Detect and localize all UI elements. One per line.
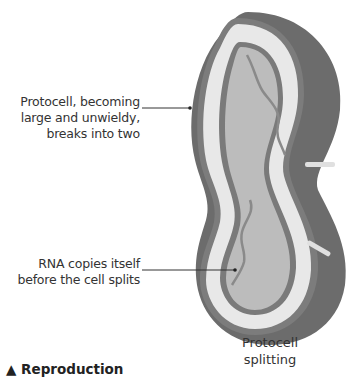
callout-line: breaks into two [0,126,140,142]
caption-line: splitting [220,351,320,368]
section-heading: ▲ Reproduction [6,361,123,377]
callout-line: before the cell splits [0,272,140,288]
section-heading-text: Reproduction [21,361,123,377]
callout-rna-copy: RNA copies itself before the cell splits [0,256,140,288]
figure-caption: Protocell splitting [220,334,320,368]
triangle-marker-icon: ▲ [6,361,16,377]
callout-protocell-growth: Protocell, becoming large and unwieldy, … [0,94,140,142]
membrane-fragment [305,162,335,167]
callout-line: large and unwieldy, [0,110,140,126]
callout-line: Protocell, becoming [0,94,140,110]
caption-line: Protocell [220,334,320,351]
callout-line: RNA copies itself [0,256,140,272]
